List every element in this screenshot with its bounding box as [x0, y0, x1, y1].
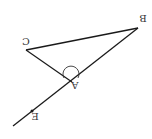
label-b: B	[139, 13, 146, 24]
triangle-diagram: B C A E	[0, 0, 152, 139]
segment-bc	[26, 28, 138, 50]
label-a: A	[71, 80, 80, 91]
label-c: C	[22, 36, 30, 47]
segment-ca	[26, 50, 72, 82]
label-e: E	[31, 111, 38, 122]
